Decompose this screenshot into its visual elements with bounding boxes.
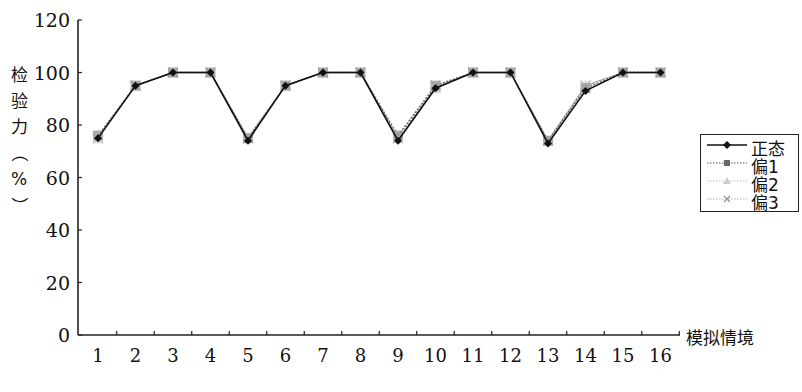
x-tick-label: 10 [424, 345, 447, 366]
x-tick-label: 14 [574, 345, 597, 366]
square-marker-icon [705, 154, 749, 172]
y-title-char: 检 [8, 62, 30, 88]
x-tick-label: 7 [317, 345, 328, 366]
y-title-char: 验 [8, 88, 30, 114]
x-tick-label: 9 [392, 345, 403, 366]
x-tick-label: 4 [205, 345, 216, 366]
y-axis-title: 检 验 力 （ % ） [8, 62, 30, 218]
legend-item-skew1: 偏1 [705, 154, 797, 172]
legend: 正态 偏1 偏2 偏3 [700, 134, 799, 212]
y-tick-label: 60 [46, 167, 70, 189]
x-tick-label: 16 [649, 345, 672, 366]
x-tick-label: 12 [499, 345, 522, 366]
y-tick-label: 0 [58, 324, 70, 346]
line-chart: 02040608010012012345678910111213141516 [0, 0, 802, 392]
y-tick-label: 100 [34, 62, 70, 84]
y-tick-label: 20 [46, 272, 70, 294]
axes: 02040608010012012345678910111213141516 [34, 9, 680, 366]
x-tick-label: 6 [280, 345, 291, 366]
y-title-char: 力 [8, 114, 30, 140]
legend-item-skew3: 偏3 [705, 190, 797, 208]
x-tick-label: 15 [612, 345, 635, 366]
y-tick-label: 40 [46, 219, 70, 241]
x-tick-label: 5 [242, 345, 253, 366]
x-tick-label: 3 [167, 345, 178, 366]
triangle-marker-icon [705, 172, 749, 190]
series-lines [92, 67, 667, 148]
x-marker-icon [705, 190, 749, 208]
legend-item-skew2: 偏2 [705, 172, 797, 190]
x-tick-label: 13 [537, 345, 560, 366]
series-line [98, 73, 661, 144]
y-tick-label: 80 [46, 114, 70, 136]
y-title-char: （ [6, 142, 32, 164]
y-tick-label: 120 [34, 9, 70, 31]
x-axis-title: 模拟情境 [686, 324, 754, 349]
x-tick-label: 1 [92, 345, 103, 366]
x-tick-label: 2 [130, 345, 141, 366]
x-tick-label: 11 [462, 345, 485, 366]
x-tick-label: 8 [355, 345, 366, 366]
diamond-marker-icon [705, 136, 749, 154]
y-title-char: % [8, 166, 30, 192]
legend-item-normal: 正态 [705, 136, 797, 154]
y-title-char: ） [6, 194, 32, 216]
